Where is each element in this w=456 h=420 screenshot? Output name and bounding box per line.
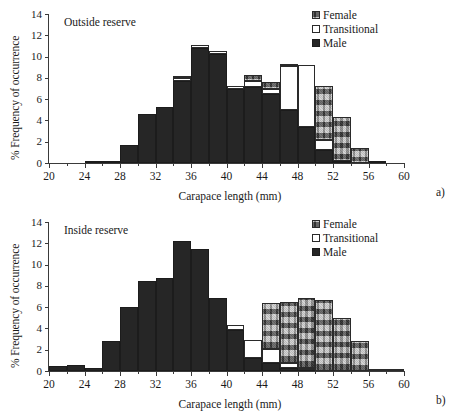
y-tick-mark bbox=[45, 57, 49, 58]
x-tick-label: 44 bbox=[249, 379, 275, 391]
x-tick-mark bbox=[156, 371, 157, 376]
y-tick-label: 0 bbox=[20, 366, 42, 377]
x-tick-mark bbox=[315, 163, 316, 166]
legend-row-male: Male bbox=[312, 245, 378, 259]
bar-segment bbox=[191, 45, 209, 48]
x-tick-mark bbox=[49, 371, 50, 376]
x-tick-label: 32 bbox=[143, 171, 169, 183]
x-tick-mark bbox=[120, 163, 121, 168]
y-tick-mark bbox=[45, 243, 49, 244]
x-tick-mark bbox=[315, 371, 316, 374]
x-tick-label: 56 bbox=[356, 171, 382, 183]
x-tick-mark bbox=[351, 371, 352, 374]
bar-segment bbox=[191, 48, 209, 163]
x-tick-mark bbox=[120, 371, 121, 376]
y-tick-label: 14 bbox=[20, 9, 42, 20]
y-tick-label: 6 bbox=[20, 302, 42, 313]
bar-segment bbox=[262, 363, 280, 372]
bar-segment bbox=[102, 341, 120, 371]
x-tick-mark bbox=[298, 371, 299, 376]
x-axis-label-b: Carapace length (mm) bbox=[130, 398, 330, 410]
legend-swatch-transitional-icon bbox=[312, 234, 320, 242]
x-tick-mark bbox=[138, 163, 139, 166]
legend-swatch-female-icon bbox=[312, 11, 320, 19]
x-tick-label: 24 bbox=[72, 171, 98, 183]
y-tick-label: 2 bbox=[20, 136, 42, 147]
y-tick-label: 14 bbox=[20, 217, 42, 228]
bar-segment bbox=[85, 368, 103, 371]
bar-segment bbox=[298, 65, 316, 127]
x-tick-mark bbox=[244, 163, 245, 166]
y-tick-mark bbox=[45, 328, 49, 329]
figure-carapace-length-distributions: % Frequency of occurrence 02468101214 20… bbox=[0, 0, 456, 420]
bar-segment bbox=[351, 148, 369, 163]
x-tick-label: 60 bbox=[391, 171, 417, 183]
x-tick-label: 20 bbox=[36, 379, 62, 391]
x-tick-mark bbox=[280, 371, 281, 374]
bar-segment bbox=[298, 298, 316, 368]
x-tick-mark bbox=[191, 163, 192, 168]
bar-segment bbox=[209, 51, 227, 55]
x-tick-label: 36 bbox=[178, 171, 204, 183]
legend-swatch-female-icon bbox=[312, 220, 320, 228]
bar-segment bbox=[227, 325, 245, 330]
bar-segment bbox=[244, 87, 262, 163]
x-tick-label: 36 bbox=[178, 379, 204, 391]
x-tick-mark bbox=[173, 163, 174, 166]
bar-segment bbox=[102, 161, 120, 163]
chart-panel-outside-reserve: % Frequency of occurrence 02468101214 20… bbox=[0, 0, 456, 210]
x-tick-mark bbox=[85, 371, 86, 376]
bar-segment bbox=[315, 300, 333, 371]
bar-segment bbox=[191, 249, 209, 371]
x-tick-mark bbox=[298, 163, 299, 168]
x-tick-mark bbox=[67, 163, 68, 166]
panel-note-a: Outside reserve bbox=[64, 16, 136, 28]
bar-segment bbox=[156, 107, 174, 163]
x-tick-mark bbox=[369, 163, 370, 168]
x-tick-mark bbox=[386, 371, 387, 374]
x-tick-label: 52 bbox=[320, 379, 346, 391]
bar-segment bbox=[369, 369, 387, 371]
y-tick-mark bbox=[45, 78, 49, 79]
x-tick-mark bbox=[333, 163, 334, 168]
bar-segment bbox=[298, 127, 316, 163]
bar-segment bbox=[209, 298, 227, 371]
y-tick-label: 12 bbox=[20, 30, 42, 41]
legend-row-transitional: Transitional bbox=[312, 231, 378, 245]
x-tick-label: 52 bbox=[320, 171, 346, 183]
bar-segment bbox=[156, 278, 174, 371]
bar-segment bbox=[280, 302, 298, 362]
x-tick-mark bbox=[191, 371, 192, 376]
legend-label-transitional: Transitional bbox=[323, 232, 378, 244]
bar-segment bbox=[315, 150, 333, 163]
x-tick-mark bbox=[102, 163, 103, 166]
legend-swatch-transitional-icon bbox=[312, 25, 320, 33]
y-tick-mark bbox=[45, 222, 49, 223]
x-tick-mark bbox=[209, 371, 210, 374]
x-tick-mark bbox=[173, 371, 174, 374]
bar-segment bbox=[386, 369, 404, 371]
y-tick-label: 8 bbox=[20, 72, 42, 83]
x-tick-mark bbox=[244, 371, 245, 374]
x-tick-label: 56 bbox=[356, 379, 382, 391]
bar-segment bbox=[209, 54, 227, 163]
y-tick-label: 10 bbox=[20, 51, 42, 62]
x-tick-label: 44 bbox=[249, 171, 275, 183]
panel-note-b: Inside reserve bbox=[64, 224, 128, 236]
bar-segment bbox=[138, 114, 156, 163]
y-tick-label: 2 bbox=[20, 344, 42, 355]
bar-segment bbox=[138, 281, 156, 371]
bar-segment bbox=[49, 366, 67, 371]
chart-panel-inside-reserve: % Frequency of occurrence 02468101214 20… bbox=[0, 205, 456, 415]
bar-segment bbox=[369, 161, 387, 163]
x-tick-mark bbox=[102, 371, 103, 374]
bar-segment bbox=[280, 110, 298, 163]
y-tick-mark bbox=[45, 265, 49, 266]
bar-segment bbox=[280, 66, 298, 110]
x-tick-mark bbox=[262, 163, 263, 168]
y-tick-label: 0 bbox=[20, 158, 42, 169]
legend-row-female: Female bbox=[312, 217, 378, 231]
legend-swatch-male-icon bbox=[312, 39, 320, 47]
x-tick-label: 20 bbox=[36, 171, 62, 183]
y-tick-label: 8 bbox=[20, 280, 42, 291]
